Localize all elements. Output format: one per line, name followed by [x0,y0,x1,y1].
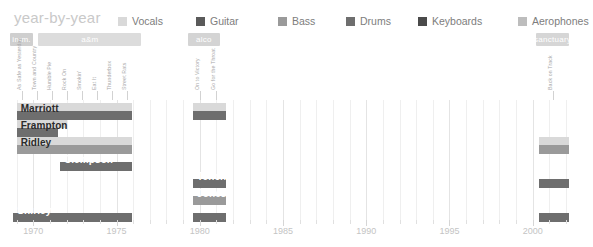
member-name: Ridley [21,137,52,148]
member-name: Tench [197,171,226,182]
member-row[interactable]: Marriott [0,103,579,119]
legend-swatch-drums-icon [346,17,355,26]
x-tick-minor [416,220,417,224]
x-tick-minor [433,220,434,224]
legend-label: Drums [360,15,391,27]
album-label: Town and Country [31,46,37,90]
album-label: Go for the Throat [210,48,216,90]
legend-swatch-bass-icon [278,17,287,26]
legend-item-bass[interactable]: Bass [278,11,315,25]
album-tick-stem [97,91,98,100]
x-tick-minor [516,220,517,224]
album-tick-stem [67,91,68,100]
album-tick-stem [82,91,83,100]
album-tick[interactable]: Back on Track [553,48,593,100]
x-axis-label: 1995 [439,226,459,236]
x-axis: 1970197519801985199019952000 [0,220,579,247]
legend-item-drums[interactable]: Drums [346,11,391,25]
album-label: As Safe as Yesterday [16,38,22,90]
member-row[interactable]: Frampton [0,120,579,136]
album-tick[interactable]: Street Rats [127,48,179,100]
era-am[interactable]: a&m [38,33,141,46]
x-tick-minor [483,220,484,224]
album-label: Thunderbox [106,61,112,90]
album-tick-stem [553,91,554,100]
segment-instrument[interactable] [539,179,569,188]
legend-item-vocals[interactable]: Vocals [118,11,163,25]
album-tick-stem [22,91,23,100]
legend-label: Keyboards [432,15,482,27]
album-label: Street Rats [121,62,127,90]
x-axis-label: 1970 [23,226,43,236]
x-axis-label: 1985 [273,226,293,236]
page-title: year-by-year [14,9,101,26]
x-axis-label: 1975 [107,226,127,236]
legend-label: Guitar [210,15,239,27]
x-tick-minor [383,220,384,224]
album-tick-stem [37,91,38,100]
x-tick-minor [316,220,317,224]
x-tick-minor [83,220,84,224]
legend-swatch-keyboards-icon [418,17,427,26]
x-tick-minor [400,220,401,224]
segment-instrument[interactable] [193,111,226,120]
member-name: Marriott [21,103,59,114]
era-band: imm.a&malcosanctuary [0,33,579,47]
x-tick-minor [566,220,567,224]
member-name: Shirley [17,205,51,216]
member-name: Frampton [21,120,68,131]
album-label: Smokin' [76,71,82,90]
x-tick-minor [350,220,351,224]
member-row[interactable]: Jones [0,188,579,204]
x-tick-minor [499,220,500,224]
legend-swatch-aerophones-icon [518,17,527,26]
x-axis-label: 1990 [356,226,376,236]
album-tick[interactable]: Go for the Throat [216,48,268,100]
album-tick-labels: As Safe as YesterdayTown and CountryHumb… [0,47,579,100]
album-label: Back on Track [547,55,553,90]
member-name: Jones [197,188,226,199]
era-sanctuary[interactable]: sanctuary [536,33,569,46]
timeline-plot-area: MarriottFramptonRidleyClempsonTenchJones… [0,100,579,220]
segment-instrument[interactable] [539,145,569,154]
x-tick-minor [183,220,184,224]
x-tick-minor [150,220,151,224]
era-alco[interactable]: alco [188,33,220,46]
album-label: On to Victory [194,58,200,90]
member-row[interactable]: Clempson [0,154,579,170]
member-row[interactable]: Ridley [0,137,579,153]
x-tick-minor [67,220,68,224]
album-label: Rock On [61,69,67,90]
legend-item-keyboards[interactable]: Keyboards [418,11,482,25]
album-label: Eat It [91,77,97,90]
legend: VocalsGuitarBassDrumsKeyboardsAerophones [118,11,575,25]
x-tick-minor [466,220,467,224]
x-tick-minor [216,220,217,224]
album-label: Humble Pie [46,62,52,90]
x-tick-minor [266,220,267,224]
x-tick-minor [333,220,334,224]
x-axis-label: 1980 [190,226,210,236]
legend-label: Aerophones [532,15,589,27]
member-row[interactable]: Shirley [0,205,579,221]
x-tick-minor [50,220,51,224]
member-row[interactable]: Tench [0,171,579,187]
x-tick-minor [233,220,234,224]
album-tick-stem [112,91,113,100]
legend-swatch-vocals-icon [118,17,127,26]
x-axis-label: 2000 [523,226,543,236]
member-name: Clempson [64,154,113,165]
album-tick-stem [200,91,201,100]
x-tick-minor [100,220,101,224]
legend-item-guitar[interactable]: Guitar [196,11,239,25]
segment-vocals[interactable] [539,137,569,145]
album-tick-stem [216,91,217,100]
legend-item-aerophones[interactable]: Aerophones [518,11,589,25]
x-tick-minor [549,220,550,224]
legend-label: Bass [292,15,315,27]
segment-vocals[interactable] [193,103,226,111]
x-tick-minor [250,220,251,224]
album-tick-stem [52,91,53,100]
legend-swatch-guitar-icon [196,17,205,26]
